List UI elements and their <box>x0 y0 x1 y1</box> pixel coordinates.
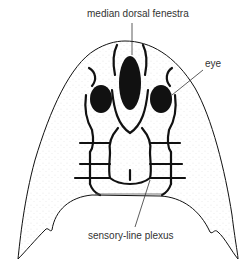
label-median-dorsal-fenestra: median dorsal fenestra <box>87 8 189 19</box>
right-eye <box>150 85 172 113</box>
label-eye: eye <box>205 58 221 69</box>
label-sensory-line-plexus: sensory-line plexus <box>88 230 174 241</box>
median-dorsal-fenestra <box>119 56 141 110</box>
caption-clipped <box>0 268 249 276</box>
left-eye <box>90 85 112 113</box>
